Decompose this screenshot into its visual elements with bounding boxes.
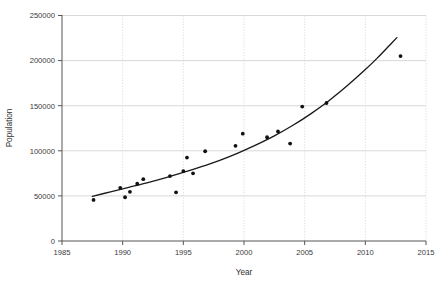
data-point: [92, 198, 96, 202]
data-point: [300, 105, 304, 109]
data-point: [399, 54, 403, 58]
x-tick-label-1990: 1990: [114, 248, 131, 257]
y-tick-label-100000: 100000: [30, 147, 55, 156]
y-axis-title: Population: [5, 108, 14, 147]
data-point: [325, 101, 329, 105]
y-tick-label-200000: 200000: [30, 56, 55, 65]
data-point: [118, 186, 122, 190]
x-tick-label-2005: 2005: [296, 248, 313, 257]
vertical-gridlines: [123, 16, 426, 242]
data-point: [203, 149, 207, 153]
x-axis-tick-labels: 1985199019952000200520102015: [54, 248, 435, 257]
x-axis-tick-marks: [62, 241, 426, 245]
chart-canvas: 050000100000150000200000250000 198519901…: [0, 0, 441, 282]
data-point: [276, 130, 280, 134]
data-point: [135, 182, 139, 186]
x-tick-label-2000: 2000: [236, 248, 253, 257]
population-vs-year-scatter-chart: 050000100000150000200000250000 198519901…: [0, 0, 441, 282]
y-tick-label-50000: 50000: [34, 192, 55, 201]
data-point: [288, 142, 292, 146]
x-tick-label-2015: 2015: [418, 248, 435, 257]
data-point: [141, 177, 145, 181]
x-tick-label-1985: 1985: [54, 248, 71, 257]
x-axis-title: Year: [236, 268, 253, 277]
data-point: [128, 190, 132, 194]
y-axis-tick-labels: 050000100000150000200000250000: [30, 11, 55, 246]
data-point: [241, 132, 245, 136]
y-axis-tick-marks: [58, 16, 62, 242]
y-tick-label-150000: 150000: [30, 102, 55, 111]
y-tick-label-0: 0: [51, 237, 55, 246]
data-point: [181, 169, 185, 173]
data-point: [185, 156, 189, 160]
exponential-fit-curve: [92, 38, 397, 197]
data-point: [174, 190, 178, 194]
data-point: [123, 195, 127, 199]
data-point: [234, 144, 238, 148]
data-point: [168, 174, 172, 178]
x-tick-label-2010: 2010: [357, 248, 374, 257]
x-tick-label-1995: 1995: [175, 248, 192, 257]
scatter-data-points: [92, 54, 403, 202]
data-point: [191, 171, 195, 175]
data-point: [265, 135, 269, 139]
y-tick-label-250000: 250000: [30, 11, 55, 20]
